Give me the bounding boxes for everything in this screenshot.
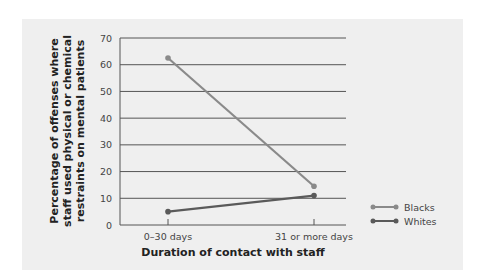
data-point <box>311 193 317 199</box>
y-tick-label: 0 <box>106 220 112 231</box>
legend-label: Blacks <box>404 202 435 213</box>
legend-item-blacks: Blacks <box>371 202 435 213</box>
legend-marker-icon <box>371 205 376 210</box>
series-whites <box>165 193 317 215</box>
y-axis-ticks: 010203040506070 <box>100 33 112 231</box>
series-blacks <box>165 55 317 189</box>
y-axis-title-line-2: staff used physical or chemical <box>61 35 74 227</box>
x-axis-title: Duration of contact with staff <box>141 246 325 259</box>
y-tick-label: 30 <box>100 139 112 150</box>
y-tick-label: 40 <box>100 113 112 124</box>
y-tick-label: 50 <box>100 86 112 97</box>
line-chart: 010203040506070 0–30 days31 or more days… <box>0 0 499 272</box>
x-tick-label: 0–30 days <box>144 231 192 242</box>
legend-marker-icon <box>394 219 399 224</box>
y-axis-title-line-1: Percentage of offenses where <box>48 38 61 223</box>
y-tick-label: 20 <box>100 166 112 177</box>
series-line <box>168 58 314 186</box>
data-point <box>165 209 171 215</box>
legend: BlacksWhites <box>371 202 437 227</box>
x-tick-label: 31 or more days <box>275 231 353 242</box>
series-lines <box>165 55 317 214</box>
data-point <box>311 183 317 189</box>
y-tick-label: 60 <box>100 59 112 70</box>
y-tick-label: 10 <box>100 193 112 204</box>
legend-marker-icon <box>394 205 399 210</box>
y-axis-title: Percentage of offenses where staff used … <box>48 35 87 227</box>
y-axis-title-line-3: restraints on mental patients <box>74 39 87 222</box>
legend-marker-icon <box>371 219 376 224</box>
x-axis-ticks: 0–30 days31 or more days <box>144 219 353 242</box>
data-point <box>165 55 171 61</box>
y-tick-label: 70 <box>100 33 112 44</box>
legend-label: Whites <box>404 216 437 227</box>
legend-item-whites: Whites <box>371 216 437 227</box>
